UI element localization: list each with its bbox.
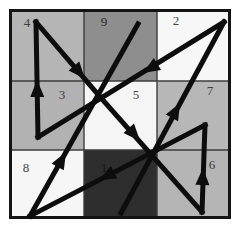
cell-number-3: 3 (59, 87, 66, 102)
cell-number-8: 8 (23, 160, 30, 175)
cell-number-7: 7 (207, 83, 214, 98)
path-segment-3-to-4 (36, 22, 38, 137)
cell-number-5: 5 (133, 87, 140, 102)
path-segment-6-to-7 (202, 125, 205, 212)
cell-number-6: 6 (209, 157, 216, 172)
cell-number-9: 9 (101, 14, 108, 29)
magic-square-figure: 492357816 (0, 0, 243, 239)
cell-2 (157, 12, 228, 81)
cell-number-4: 4 (24, 15, 31, 30)
cell-number-2: 2 (173, 13, 180, 28)
magic-square-svg: 492357816 (0, 0, 243, 239)
cell-6 (157, 150, 228, 216)
